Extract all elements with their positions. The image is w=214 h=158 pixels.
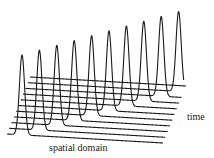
waterfall-diagram [0,0,214,158]
pulse-trace [23,21,179,103]
pulse-traces [7,11,186,143]
pulse-trace [25,16,181,97]
pulse-trace [21,26,177,109]
spatial-domain-axis-label: spatial domain [49,143,108,153]
time-axis-label: time [187,112,205,122]
